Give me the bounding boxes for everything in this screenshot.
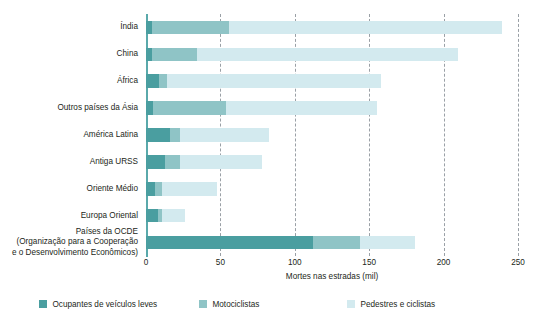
category-label-line: Índia xyxy=(0,22,138,32)
category-label-line: China xyxy=(0,49,138,59)
x-tick-label: 100 xyxy=(288,258,302,267)
bar-row xyxy=(146,74,518,88)
bar-segment-motorcyclists xyxy=(170,128,180,142)
x-tick-label: 0 xyxy=(144,258,149,267)
bar-segment-occupants xyxy=(146,128,170,142)
bar-segment-pedestrians xyxy=(360,236,415,250)
bar-row xyxy=(146,48,518,62)
bar-segment-occupants xyxy=(146,101,153,115)
category-label: América Latina xyxy=(0,130,142,140)
bar-segment-motorcyclists xyxy=(152,48,197,62)
category-label: China xyxy=(0,49,142,59)
category-axis-labels: ÍndiaChinaÁfricaOutros países da ÁsiaAmé… xyxy=(0,14,142,256)
bar-segment-pedestrians xyxy=(162,182,217,196)
legend-swatch-medium xyxy=(199,300,207,308)
category-label-line: Antiga URSS xyxy=(0,157,138,167)
bar-segment-occupants xyxy=(146,236,313,250)
legend-swatch-light xyxy=(347,300,355,308)
category-label-line: (Organização para a Cooperação xyxy=(0,237,138,248)
bar-segment-occupants xyxy=(146,74,159,88)
bar-segment-motorcyclists xyxy=(153,101,226,115)
x-tick-label: 150 xyxy=(362,258,376,267)
bar-row xyxy=(146,21,518,35)
legend-label: Pedestres e ciclistas xyxy=(361,300,436,309)
bar-segment-pedestrians xyxy=(180,128,269,142)
legend-item[interactable]: Motociclistas xyxy=(199,300,347,309)
category-label: Oriente Médio xyxy=(0,184,142,194)
category-label: Europa Oriental xyxy=(0,211,142,221)
bar-segment-motorcyclists xyxy=(165,155,180,169)
bar-segment-pedestrians xyxy=(167,74,381,88)
road-deaths-stacked-bar-chart: ÍndiaChinaÁfricaOutros países da ÁsiaAmé… xyxy=(0,0,537,322)
category-label-line: América Latina xyxy=(0,130,138,140)
gridline-250 xyxy=(518,14,519,256)
bar-segment-pedestrians xyxy=(226,101,376,115)
bar-segment-occupants xyxy=(146,209,158,223)
legend-item[interactable]: Ocupantes de veículos leves xyxy=(39,300,199,309)
category-label: Índia xyxy=(0,22,142,32)
legend-label: Motociclistas xyxy=(213,300,260,309)
x-tick-label: 50 xyxy=(216,258,225,267)
bar-row xyxy=(146,101,518,115)
bar-segment-occupants xyxy=(146,182,155,196)
category-label-line: Outros países da Ásia xyxy=(0,103,138,113)
bar-row xyxy=(146,209,518,223)
bar-row xyxy=(146,155,518,169)
chart-legend: Ocupantes de veículos levesMotociclistas… xyxy=(0,296,537,312)
category-label-line: África xyxy=(0,76,138,86)
bar-segment-motorcyclists xyxy=(155,182,162,196)
bar-row xyxy=(146,128,518,142)
x-axis-ticks: 050100150200250 xyxy=(146,258,518,272)
category-label-line: Oriente Médio xyxy=(0,184,138,194)
category-label-line: Países da OCDE xyxy=(0,227,138,238)
bar-segment-pedestrians xyxy=(180,155,262,169)
bar-segment-pedestrians xyxy=(197,48,459,62)
category-label: Outros países da Ásia xyxy=(0,103,142,113)
x-tick-label: 250 xyxy=(511,258,525,267)
category-label: Antiga URSS xyxy=(0,157,142,167)
bar-segment-occupants xyxy=(146,155,165,169)
bars-container xyxy=(146,14,518,256)
category-label-line: Europa Oriental xyxy=(0,211,138,221)
bar-row xyxy=(146,182,518,196)
legend-swatch-dark xyxy=(39,300,47,308)
bar-segment-motorcyclists xyxy=(152,21,229,35)
category-label: Países da OCDE(Organização para a Cooper… xyxy=(0,227,142,259)
bar-row xyxy=(146,236,518,250)
bar-segment-pedestrians xyxy=(162,209,184,223)
bar-segment-motorcyclists xyxy=(313,236,361,250)
bar-segment-pedestrians xyxy=(229,21,501,35)
category-label: África xyxy=(0,76,142,86)
x-tick-label: 200 xyxy=(437,258,451,267)
legend-label: Ocupantes de veículos leves xyxy=(53,300,158,309)
legend-item[interactable]: Pedestres e ciclistas xyxy=(347,300,499,309)
category-label-line: e o Desenvolvimento Econômicos) xyxy=(0,248,138,259)
x-axis-title: Mortes nas estradas (mil) xyxy=(146,272,518,281)
bar-segment-motorcyclists xyxy=(159,74,166,88)
